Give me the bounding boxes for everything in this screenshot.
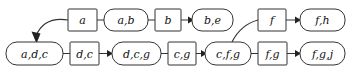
node-cg-label: c,g bbox=[174, 48, 191, 61]
node-dc-label: d,c bbox=[76, 48, 93, 61]
node-adc-label: a,d,c bbox=[21, 48, 48, 61]
node-dcg-label: d,c,g bbox=[123, 48, 150, 61]
node-be-label: b,e bbox=[204, 14, 222, 27]
node-b-label: b bbox=[164, 14, 171, 27]
node-fgj-label: f,g,j bbox=[311, 48, 334, 61]
node-fg-label: f,g bbox=[264, 48, 279, 61]
state-transition-diagram: a a,b b b,e f f,h a,d,c d,c d,c,g c,g c,… bbox=[0, 0, 349, 73]
edge-a-to-adc-curve bbox=[36, 19, 68, 36]
node-ab-label: a,b bbox=[117, 14, 134, 27]
node-cfg-label: c,f,g bbox=[216, 48, 240, 61]
edge-f-to-cfg-curve bbox=[232, 20, 258, 42]
node-a-label: a bbox=[79, 14, 86, 27]
node-group: a a,b b b,e f f,h a,d,c d,c d,c,g c,g c,… bbox=[6, 9, 345, 65]
node-fh-label: f,h bbox=[314, 14, 329, 27]
diagram-canvas: a a,b b b,e f f,h a,d,c d,c d,c,g c,g c,… bbox=[0, 0, 349, 73]
